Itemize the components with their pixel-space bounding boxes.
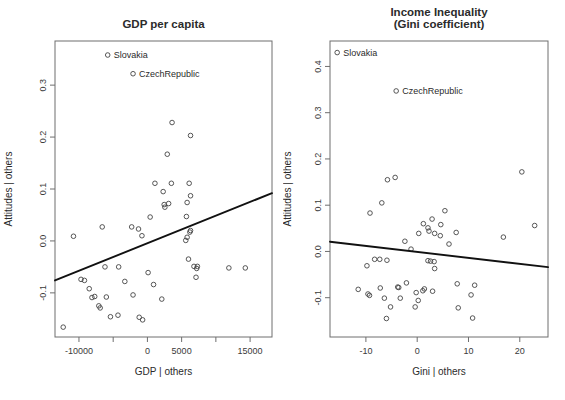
data-point	[380, 201, 385, 206]
data-point	[501, 235, 506, 240]
data-point	[365, 263, 370, 268]
data-point	[378, 286, 383, 291]
y-axis-label: Attitudes | others	[283, 152, 293, 227]
data-point	[447, 242, 452, 247]
data-point	[368, 211, 373, 216]
data-point	[61, 325, 66, 330]
y-tick-label: 0.2	[38, 131, 48, 144]
x-axis-label: Gini | others	[412, 366, 466, 377]
regression-line	[55, 193, 272, 280]
data-point	[421, 221, 426, 226]
data-point	[116, 265, 121, 270]
data-point	[87, 286, 92, 291]
data-point	[170, 120, 175, 125]
data-point	[382, 296, 387, 301]
scatter-plot-gdp: GDP per capita-100000500015000-0.10.00.1…	[0, 0, 283, 400]
x-tick-label: 15000	[238, 346, 263, 356]
data-point	[161, 189, 166, 194]
data-point	[455, 282, 460, 287]
y-tick-label: 0.1	[313, 199, 323, 212]
data-point	[165, 152, 170, 157]
data-point	[398, 296, 403, 301]
data-point	[136, 227, 141, 232]
data-point	[92, 294, 97, 299]
data-point	[105, 53, 110, 58]
data-point	[188, 133, 193, 138]
x-tick-label: 5000	[172, 346, 192, 356]
chart-title: GDP per capita	[122, 18, 205, 30]
data-point	[188, 193, 193, 198]
data-point	[104, 295, 109, 300]
data-point	[394, 89, 399, 94]
data-point	[131, 71, 136, 76]
data-point	[432, 266, 437, 271]
data-point	[194, 275, 199, 280]
data-point	[166, 201, 171, 206]
y-tick-label: 0.3	[313, 106, 323, 119]
point-label: Slovakia	[343, 48, 377, 58]
data-point	[469, 293, 474, 298]
data-point	[146, 270, 151, 275]
y-tick-label: 0.0	[313, 245, 323, 258]
data-point	[335, 50, 340, 55]
data-point	[71, 234, 76, 239]
data-point	[404, 281, 409, 286]
data-point	[159, 297, 164, 302]
x-tick-label: -10000	[65, 346, 93, 356]
data-point	[532, 223, 537, 228]
data-point	[443, 208, 448, 213]
data-point	[185, 200, 190, 205]
data-point	[432, 231, 437, 236]
x-tick-label: 20	[515, 346, 525, 356]
data-point	[430, 289, 435, 294]
data-point	[456, 306, 461, 311]
data-point	[227, 266, 232, 271]
data-point	[403, 239, 408, 244]
y-axis-label: Attitudes | others	[3, 152, 14, 227]
data-point	[100, 225, 105, 230]
data-point	[153, 181, 158, 186]
y-tick-label: -0.1	[38, 285, 48, 301]
data-point	[169, 181, 174, 186]
data-point	[108, 314, 113, 319]
data-point	[131, 293, 136, 298]
data-point	[384, 316, 389, 321]
data-point	[470, 316, 475, 321]
data-point	[140, 318, 145, 323]
data-point	[90, 295, 95, 300]
point-label: Slovakia	[114, 50, 148, 60]
regression-line	[330, 242, 548, 267]
y-tick-label: 0.2	[313, 153, 323, 166]
data-point	[184, 214, 189, 219]
data-point	[430, 217, 435, 222]
data-point	[393, 175, 398, 180]
data-point	[372, 257, 377, 262]
panel-income-inequality: Income Inequality(Gini coefficient)-1001…	[283, 0, 565, 400]
data-point	[520, 170, 525, 175]
data-point	[416, 298, 421, 303]
plot-area-right: Income Inequality(Gini coefficient)-1001…	[283, 0, 565, 400]
data-point	[187, 181, 192, 186]
data-point	[123, 279, 128, 284]
x-tick-label: -10	[359, 346, 372, 356]
point-label: CzechRepublic	[402, 86, 463, 96]
data-point	[186, 257, 191, 262]
data-point	[116, 313, 121, 318]
data-point	[438, 233, 443, 238]
scatter-plot-gini: Income Inequality(Gini coefficient)-1001…	[283, 0, 565, 400]
y-tick-label: -0.1	[313, 290, 323, 306]
y-tick-label: 0.4	[313, 60, 323, 73]
data-point	[356, 287, 361, 292]
data-point	[414, 290, 419, 295]
x-tick-label: 0	[145, 346, 150, 356]
data-point	[243, 266, 248, 271]
data-point	[385, 177, 390, 182]
x-axis-label: GDP | others	[135, 366, 192, 377]
y-tick-label: 0.3	[38, 79, 48, 92]
data-point	[472, 283, 477, 288]
data-point	[103, 265, 108, 270]
chart-title: Income Inequality	[390, 6, 488, 18]
y-tick-label: 0.0	[38, 235, 48, 248]
point-label: CzechRepublic	[139, 69, 200, 79]
data-point	[140, 233, 145, 238]
